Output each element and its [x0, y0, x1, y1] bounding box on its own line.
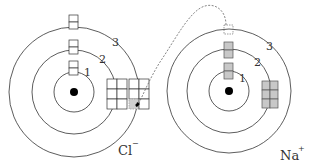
- na-charge: +: [298, 144, 305, 153]
- cl-shell-2-label: 2: [99, 53, 106, 66]
- cl-shell-1-s-orbital: [69, 61, 78, 75]
- na-shell-1-label: 1: [239, 72, 246, 85]
- na-shell-2-p-orbital: [262, 81, 278, 108]
- chlorine-atom: 1 2 3 Cl −: [9, 15, 149, 158]
- cl-ion-label: Cl: [118, 143, 132, 158]
- cl-nucleus: [70, 88, 78, 96]
- sodium-atom: 1 2 3 Na +: [167, 25, 305, 163]
- cl-shell-2-s-orbital: [69, 40, 78, 54]
- cl-shell-3-s-orbital: [69, 15, 78, 29]
- cl-shell-3-label: 3: [112, 36, 119, 49]
- cl-shell-1-label: 1: [84, 66, 91, 79]
- ionic-bond-diagram: 1 2 3 Cl −: [0, 0, 311, 167]
- na-shell-2-s-orbital: [224, 42, 233, 58]
- na-ion-label: Na: [280, 148, 299, 163]
- na-shell-2-label: 2: [254, 56, 261, 69]
- na-shell-3-label: 3: [266, 40, 273, 53]
- na-shell-1-s-orbital: [224, 63, 233, 79]
- cl-charge: −: [132, 139, 139, 148]
- cl-shell-2-p-orbital: [107, 79, 127, 109]
- na-nucleus: [225, 87, 233, 95]
